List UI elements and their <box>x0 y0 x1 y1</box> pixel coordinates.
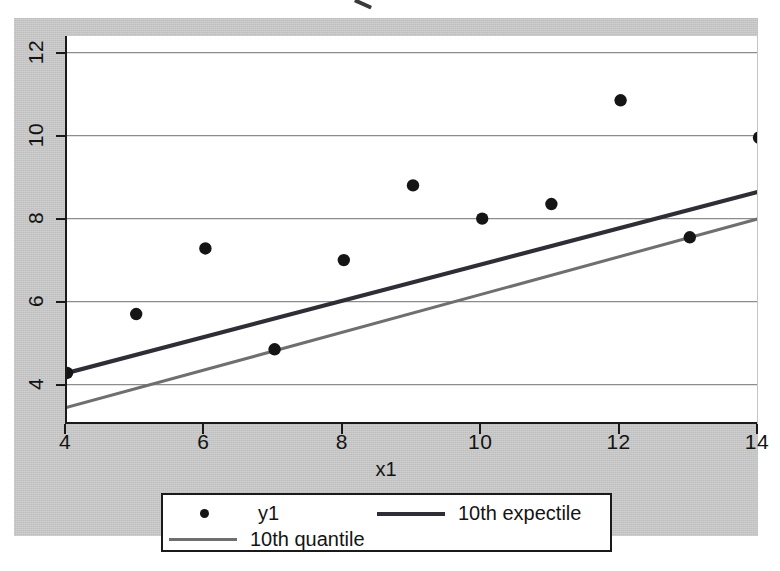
y-tick-label-6: 6 <box>24 283 48 319</box>
x-tick-mark-10 <box>479 424 481 434</box>
y-tick-label-12: 12 <box>24 34 48 70</box>
y-tick-mark-8 <box>56 218 65 220</box>
x-axis-title: x1 <box>14 458 758 481</box>
series-line-10th-quantile <box>67 219 757 408</box>
data-point <box>753 131 757 143</box>
data-point <box>67 367 73 379</box>
plot-area <box>67 36 757 422</box>
data-point <box>684 231 696 243</box>
y-tick-mark-12 <box>56 52 65 54</box>
data-point <box>199 242 211 254</box>
y-tick-mark-4 <box>56 384 65 386</box>
y-tick-label-8: 8 <box>24 200 48 236</box>
data-point <box>130 308 142 320</box>
legend-marker-dot-icon <box>200 509 209 518</box>
x-tick-mark-8 <box>341 424 343 434</box>
y-tick-label-10: 10 <box>24 117 48 153</box>
data-point <box>268 343 280 355</box>
plot-svg <box>67 36 757 422</box>
legend-marker-line-thin-icon <box>169 538 237 541</box>
series-scatter-y1 <box>67 94 757 379</box>
x-tick-label-14: 14 <box>727 430 780 454</box>
data-point <box>545 198 557 210</box>
plot-panel <box>65 36 757 424</box>
y-tick-mark-6 <box>56 301 65 303</box>
legend-label-quantile: 10th quantile <box>250 528 365 551</box>
x-tick-mark-6 <box>202 424 204 434</box>
x-tick-mark-14 <box>756 424 758 434</box>
legend-marker-line-thick-icon <box>377 512 445 516</box>
data-point <box>338 254 350 266</box>
data-point <box>476 212 488 224</box>
chart-legend: y1 10th expectile 10th quantile <box>161 493 612 552</box>
x-tick-mark-12 <box>618 424 620 434</box>
y-tick-mark-10 <box>56 135 65 137</box>
data-point <box>407 179 419 191</box>
legend-item-y1[interactable]: y1 <box>200 502 279 525</box>
x-tick-mark-4 <box>64 424 66 434</box>
legend-item-quantile[interactable]: 10th quantile <box>169 528 365 551</box>
legend-item-expectile[interactable]: 10th expectile <box>377 502 581 525</box>
figure-canvas: 4681012 468101214 x1 y1 10th expectile 1… <box>14 18 758 536</box>
legend-label-y1: y1 <box>258 502 279 525</box>
scan-artifact-mark <box>352 0 376 11</box>
data-point <box>614 94 626 106</box>
y-tick-label-4: 4 <box>24 366 48 402</box>
scan-artifact-stroke <box>354 0 372 9</box>
legend-label-expectile: 10th expectile <box>458 502 581 525</box>
